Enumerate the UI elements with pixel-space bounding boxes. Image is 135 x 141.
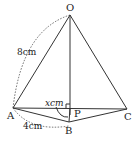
point-label-P: P [74,108,81,119]
measure-label-AB: 4cm [23,121,43,131]
point-label-A: A [6,110,15,121]
measure-label-OA: 8cm [17,47,37,57]
point-label-B: B [65,125,72,136]
edge-OC [70,15,127,109]
right-angle-marker [66,104,70,108]
pyramid-diagram: O A B C P 8cm 4cm xcm [0,0,135,141]
point-label-O: O [66,2,74,13]
point-label-C: C [124,111,132,122]
edge-PB [69,108,70,122]
measure-label-BP: xcm [45,98,64,108]
edge-OA [13,15,70,108]
